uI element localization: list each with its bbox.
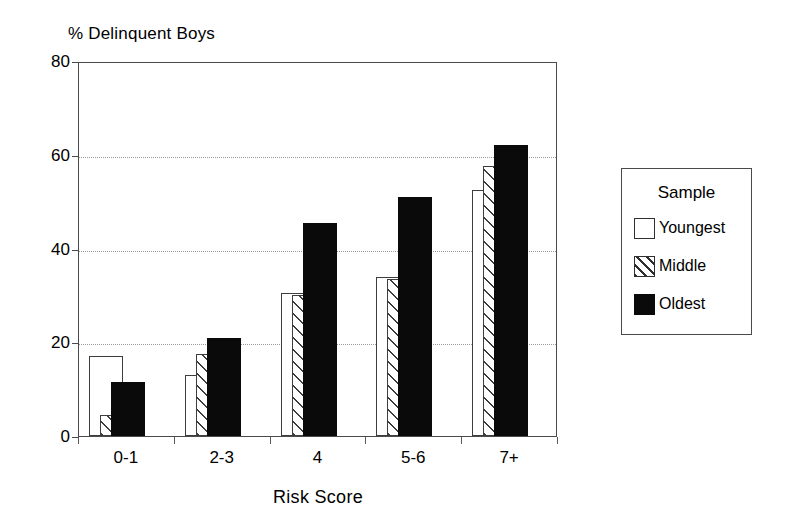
bar-group-2-3 (175, 63, 271, 436)
legend-swatch-youngest-icon (634, 218, 655, 239)
legend-label-youngest: Youngest (659, 219, 725, 237)
bar-group-4 (271, 63, 367, 436)
x-tick-mark-4 (461, 437, 462, 444)
bar-oldest-2-3[interactable] (207, 338, 241, 436)
bar-oldest-4[interactable] (303, 223, 337, 436)
bar-oldest-0-1[interactable] (111, 382, 145, 436)
plot-inner (79, 63, 556, 436)
x-tick-mark-1 (174, 437, 175, 444)
bar-oldest-5-6[interactable] (398, 197, 432, 436)
legend-label-oldest: Oldest (659, 295, 705, 313)
bar-oldest-7+[interactable] (494, 145, 528, 436)
legend-label-middle: Middle (659, 257, 706, 275)
legend-item-oldest[interactable]: Oldest (634, 293, 705, 315)
bar-group-7+ (462, 63, 558, 436)
plot-area (78, 62, 557, 437)
bar-group-0-1 (79, 63, 175, 436)
x-tick-mark-2 (270, 437, 271, 444)
x-tick-label-7+: 7+ (499, 448, 518, 468)
x-axis-title: Risk Score (0, 487, 636, 508)
y-tick-label-80: 80 (28, 52, 70, 72)
bar-group-5-6 (366, 63, 462, 436)
legend-swatch-middle-icon (634, 256, 655, 277)
y-tick-label-20: 20 (28, 333, 70, 353)
x-tick-label-4: 4 (313, 448, 322, 468)
legend-item-middle[interactable]: Middle (634, 255, 706, 277)
x-tick-label-5-6: 5-6 (401, 448, 426, 468)
x-tick-mark-3 (365, 437, 366, 444)
y-tick-label-60: 60 (28, 146, 70, 166)
x-tick-mark-0 (78, 437, 79, 444)
x-tick-label-0-1: 0-1 (114, 448, 139, 468)
bar-chart-figure: % Delinquent Boys 806040200 0-12-345-67+… (0, 0, 795, 531)
y-axis-title: % Delinquent Boys (68, 24, 215, 44)
legend-swatch-oldest-icon (634, 294, 655, 315)
x-tick-mark-5 (557, 437, 558, 444)
y-tick-label-40: 40 (28, 240, 70, 260)
y-tick-label-0: 0 (28, 427, 70, 447)
legend-box: Sample YoungestMiddleOldest (621, 168, 752, 335)
legend-item-youngest[interactable]: Youngest (634, 217, 725, 239)
x-tick-label-2-3: 2-3 (209, 448, 234, 468)
legend-title: Sample (622, 183, 751, 203)
